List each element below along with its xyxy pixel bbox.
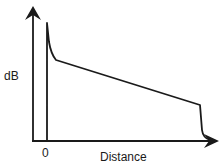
y-axis-label: dB <box>4 69 19 83</box>
trace-line <box>47 23 210 141</box>
diagram: dB 0 Distance <box>0 0 222 166</box>
y-axis <box>25 6 41 141</box>
x-axis <box>32 134 219 148</box>
x-axis-label: Distance <box>100 150 147 164</box>
x-origin-label: 0 <box>42 146 49 160</box>
